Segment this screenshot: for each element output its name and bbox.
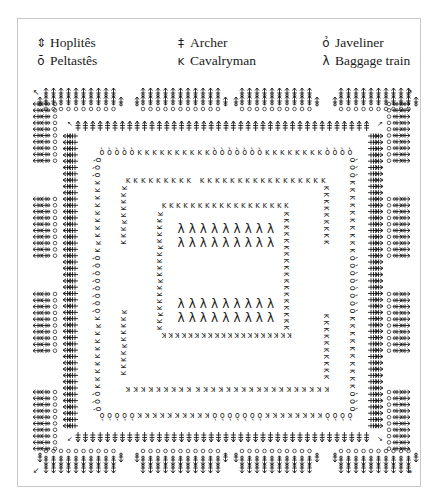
svg-text:ĸ: ĸ <box>309 385 314 394</box>
svg-text:ĸ: ĸ <box>303 148 308 157</box>
svg-text:ĸ: ĸ <box>282 232 291 237</box>
svg-text:ĸ: ĸ <box>282 285 291 290</box>
svg-text:ĸ: ĸ <box>164 176 169 185</box>
svg-text:ĸ: ĸ <box>348 203 357 208</box>
svg-text:ĸ: ĸ <box>156 218 165 223</box>
svg-text:ĸ: ĸ <box>348 180 357 185</box>
svg-text:ĸ: ĸ <box>322 226 331 231</box>
svg-text:ĸ: ĸ <box>94 376 103 381</box>
svg-text:ĸ: ĸ <box>94 369 103 374</box>
svg-text:ò: ò <box>340 147 345 157</box>
svg-text:ĸ: ĸ <box>156 312 165 317</box>
svg-text:ĸ: ĸ <box>348 369 357 374</box>
svg-text:ĸ: ĸ <box>282 245 291 250</box>
svg-text:ĸ: ĸ <box>163 385 168 394</box>
svg-text:ĸ: ĸ <box>144 411 149 420</box>
baggage-train: λλλλλλλλλλλλλλλλλλλλλλλλλλλλλλλλλλλλ <box>177 222 274 325</box>
svg-text:ĸ: ĸ <box>322 220 331 225</box>
svg-text:ĸ: ĸ <box>348 376 357 381</box>
svg-text:ĸ: ĸ <box>94 203 103 208</box>
svg-text:ò: ò <box>250 147 255 157</box>
svg-text:ĸ: ĸ <box>94 210 103 215</box>
svg-text:ĸ: ĸ <box>348 339 357 344</box>
svg-text:ĸ: ĸ <box>120 192 129 197</box>
svg-text:ò: ò <box>250 411 255 421</box>
svg-text:ĸ: ĸ <box>282 225 291 230</box>
svg-text:ĸ: ĸ <box>274 331 279 340</box>
svg-text:ò: ò <box>100 147 105 157</box>
svg-text:↖: ↖ <box>33 88 40 97</box>
svg-text:ĸ: ĸ <box>94 323 103 328</box>
svg-text:ĸ: ĸ <box>161 331 166 340</box>
svg-text:ĸ: ĸ <box>253 176 258 185</box>
svg-text:ĸ: ĸ <box>156 298 165 303</box>
svg-text:ĸ: ĸ <box>179 385 184 394</box>
svg-text:↗: ↗ <box>406 88 413 97</box>
svg-text:ĸ: ĸ <box>171 385 176 394</box>
svg-text:ò: ò <box>348 256 358 261</box>
svg-text:↘: ↘ <box>406 466 413 475</box>
svg-text:ò: ò <box>122 147 127 157</box>
svg-text:ĸ: ĸ <box>260 331 265 340</box>
svg-text:ĸ: ĸ <box>156 231 165 236</box>
svg-text:ĸ: ĸ <box>302 411 307 420</box>
svg-text:ĸ: ĸ <box>322 348 331 353</box>
svg-text:λ: λ <box>256 311 263 325</box>
svg-text:ò: ò <box>348 271 358 276</box>
svg-text:ĸ: ĸ <box>162 201 167 210</box>
svg-text:ĸ: ĸ <box>175 331 180 340</box>
svg-text:ĸ: ĸ <box>348 226 357 231</box>
svg-text:λ: λ <box>177 311 184 325</box>
svg-text:ĸ: ĸ <box>141 176 146 185</box>
svg-text:ĸ: ĸ <box>120 213 129 218</box>
svg-text:ĸ: ĸ <box>322 233 331 238</box>
svg-text:ĸ: ĸ <box>245 176 250 185</box>
svg-text:ò: ò <box>348 165 358 170</box>
svg-text:ò: ò <box>93 301 103 306</box>
svg-text:ò: ò <box>93 406 103 411</box>
svg-text:ĸ: ĸ <box>322 341 331 346</box>
svg-text:λ: λ <box>233 311 240 325</box>
svg-text:ò: ò <box>93 286 103 291</box>
svg-text:ĸ: ĸ <box>241 201 246 210</box>
svg-text:ò: ò <box>257 147 262 157</box>
svg-text:ĸ: ĸ <box>160 148 165 157</box>
svg-text:ĸ: ĸ <box>262 201 267 210</box>
svg-text:ĸ: ĸ <box>268 176 273 185</box>
svg-text:ĸ: ĸ <box>265 411 270 420</box>
svg-text:ò: ò <box>348 263 358 268</box>
svg-text:ĸ: ĸ <box>94 233 103 238</box>
svg-text:ĸ: ĸ <box>263 385 268 394</box>
svg-text:ĸ: ĸ <box>94 316 103 321</box>
svg-text:λ: λ <box>245 311 252 325</box>
svg-text:ĸ: ĸ <box>94 354 103 359</box>
svg-text:ĸ: ĸ <box>167 411 172 420</box>
svg-text:ĸ: ĸ <box>94 225 103 230</box>
svg-text:ĸ: ĸ <box>120 323 129 328</box>
svg-text:ĸ: ĸ <box>260 176 265 185</box>
svg-text:ĸ: ĸ <box>348 361 357 366</box>
svg-text:ĸ: ĸ <box>125 385 130 394</box>
svg-text:ĸ: ĸ <box>318 148 323 157</box>
svg-text:ĸ: ĸ <box>94 180 103 185</box>
svg-text:ĸ: ĸ <box>306 176 311 185</box>
svg-text:ò: ò <box>332 411 337 421</box>
svg-text:ĸ: ĸ <box>282 312 291 317</box>
svg-text:ĸ: ĸ <box>219 201 224 210</box>
svg-text:ĸ: ĸ <box>322 206 331 211</box>
formation-diagram: ↖↗↙↘↖↗↙↘òòòòòĸĸĸĸĸĸĸĸĸĸòòòòòòòĸĸĸĸĸĸĸĸòò… <box>0 0 442 498</box>
svg-text:ĸ: ĸ <box>254 331 259 340</box>
svg-text:ĸ: ĸ <box>218 385 223 394</box>
svg-text:ĸ: ĸ <box>284 201 289 210</box>
svg-text:ĸ: ĸ <box>171 176 176 185</box>
svg-text:λ: λ <box>233 236 240 250</box>
svg-text:ĸ: ĸ <box>211 385 216 394</box>
svg-text:ĸ: ĸ <box>322 375 331 380</box>
svg-text:ĸ: ĸ <box>195 385 200 394</box>
svg-text:ò: ò <box>130 411 135 421</box>
svg-text:ò: ò <box>212 147 217 157</box>
svg-text:λ: λ <box>177 297 184 311</box>
svg-text:ò: ò <box>93 263 103 268</box>
svg-text:ĸ: ĸ <box>181 331 186 340</box>
svg-text:λ: λ <box>256 297 263 311</box>
